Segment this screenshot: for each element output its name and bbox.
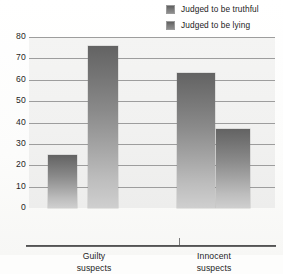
gridline-60: [29, 80, 275, 81]
y-tick-40: 40: [2, 117, 26, 127]
category-label-guilty: Guilty suspects: [39, 251, 149, 274]
y-tick-10: 10: [2, 181, 26, 191]
category-label-innocent-line1: Innocent: [159, 251, 269, 263]
legend-item-truthful: Judged to be truthful: [166, 2, 283, 17]
legend-swatch-lying-icon: [166, 21, 175, 30]
gridline-70: [29, 58, 275, 59]
x-axis-center-tick: [179, 238, 180, 245]
gridline-80: [29, 37, 275, 38]
legend-item-lying: Judged to be lying: [166, 18, 283, 33]
category-label-innocent-line2: suspects: [159, 263, 269, 274]
y-tick-30: 30: [2, 138, 26, 148]
y-tick-60: 60: [2, 74, 26, 84]
legend-swatch-truthful-icon: [166, 5, 175, 14]
category-label-innocent: Innocent suspects: [159, 251, 269, 274]
bar-innocent-truthful: [177, 73, 215, 208]
legend-label-lying: Judged to be lying: [181, 20, 250, 31]
plot-background: [29, 37, 275, 208]
y-tick-50: 50: [2, 95, 26, 105]
plot-area-wrapper: Guilty suspects Innocent suspects: [29, 37, 275, 208]
bar-guilty-lying: [88, 46, 118, 208]
x-axis-line: [26, 245, 276, 247]
y-axis-tick-labels: 80 70 60 50 40 30 20 10 0: [0, 37, 26, 208]
legend-label-truthful: Judged to be truthful: [181, 4, 259, 15]
bar-innocent-lying: [216, 129, 250, 208]
gridline-40: [29, 123, 275, 124]
gridline-50: [29, 101, 275, 102]
category-label-guilty-line2: suspects: [39, 263, 149, 274]
y-tick-20: 20: [2, 159, 26, 169]
y-tick-70: 70: [2, 52, 26, 62]
chart-legend: Judged to be truthful Judged to be lying: [166, 2, 283, 34]
y-tick-80: 80: [2, 31, 26, 41]
category-label-guilty-line1: Guilty: [39, 251, 149, 263]
bar-guilty-truthful: [48, 155, 77, 208]
y-tick-0: 0: [2, 202, 26, 212]
